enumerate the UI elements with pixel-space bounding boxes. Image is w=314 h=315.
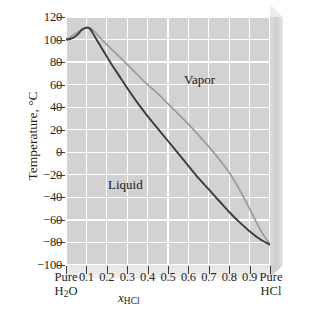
y-axis-tick-mark xyxy=(57,40,65,41)
y-axis-title: Temperature, °C xyxy=(25,41,41,231)
x-axis-left-endpoint-line1: Pure xyxy=(38,271,94,285)
x-axis-right-endpoint-label: Pure HCl xyxy=(245,271,297,298)
y-axis-tick-mark xyxy=(57,85,65,86)
x-axis-tick-mark xyxy=(188,266,189,274)
y-axis-tick-mark xyxy=(57,220,65,221)
y-axis-tick-mark xyxy=(57,152,65,153)
x-axis-tick-mark xyxy=(229,266,230,274)
x-axis-right-endpoint-line1: Pure xyxy=(245,271,297,285)
water-formula-h: H xyxy=(55,284,64,298)
plot-canvas xyxy=(66,17,270,265)
y-axis-tick-mark xyxy=(57,130,65,131)
x-axis-tick-mark xyxy=(148,266,149,274)
y-axis-tick-mark xyxy=(57,242,65,243)
y-axis-tick-label: 120 xyxy=(16,11,62,24)
y-axis-tick-mark xyxy=(57,107,65,108)
x-axis-tick-mark xyxy=(168,266,169,274)
x-axis-tick-mark xyxy=(209,266,210,274)
plot-3d-right-face xyxy=(270,17,283,265)
region-label-liquid: Liquid xyxy=(108,177,143,193)
phase-diagram-figure: Vapor Liquid 120100806040200−20−40−60−80… xyxy=(0,0,314,315)
x-axis-title: xHCl xyxy=(118,290,140,306)
x-axis-right-endpoint-line2: HCl xyxy=(245,285,297,299)
plot-area: Vapor Liquid xyxy=(66,17,270,265)
y-axis-tick-mark xyxy=(57,62,65,63)
x-axis-left-endpoint-label: Pure H2O xyxy=(38,271,94,301)
x-axis-tick-mark xyxy=(107,266,108,274)
y-axis-tick-mark xyxy=(57,265,65,266)
x-axis-title-subscript: HCl xyxy=(124,296,140,306)
y-axis-tick-label: −80 xyxy=(16,236,62,249)
y-axis-tick-mark xyxy=(57,17,65,18)
plot-3d-top-bevel xyxy=(270,4,283,17)
water-formula-o: O xyxy=(68,284,77,298)
x-axis-left-endpoint-line2: H2O xyxy=(38,285,94,302)
y-axis-tick-mark xyxy=(57,175,65,176)
y-axis-tick-mark xyxy=(57,197,65,198)
region-label-vapor: Vapor xyxy=(184,72,215,88)
x-axis-tick-mark xyxy=(127,266,128,274)
